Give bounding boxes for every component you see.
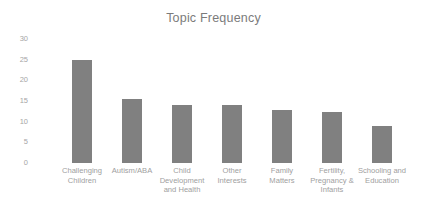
bar-slot [57,39,107,163]
bar-slot [357,39,407,163]
y-axis-tick-label: 0 [24,159,28,167]
bar-slot [307,39,357,163]
y-axis-tick-label: 25 [20,56,28,64]
bar-slot [107,39,157,163]
y-axis-tick-label: 20 [20,77,28,85]
x-axis: Challenging ChildrenAutism/ABAChild Deve… [35,166,421,211]
y-axis-tick-label: 10 [20,118,28,126]
bar-chart: Topic Frequency 051015202530 Challenging… [0,0,427,211]
y-axis-tick-label: 30 [20,35,28,43]
bar[interactable] [172,105,192,163]
bar-slot [207,39,257,163]
bar[interactable] [72,60,92,163]
bar[interactable] [372,126,392,163]
x-axis-category-label: Schooling and Education [351,166,413,185]
y-axis: 051015202530 [0,39,33,163]
plot-area [35,39,421,163]
bar[interactable] [222,105,242,163]
bar-slot [257,39,307,163]
chart-title: Topic Frequency [0,11,427,25]
bar-slot [157,39,207,163]
bar[interactable] [122,99,142,163]
y-axis-tick-label: 15 [20,97,28,105]
y-axis-tick-label: 5 [24,139,28,147]
bar[interactable] [322,112,342,163]
bar[interactable] [272,110,292,163]
